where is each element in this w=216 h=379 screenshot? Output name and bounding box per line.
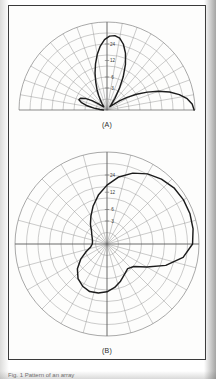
polar-chart-a-canvas: 361224 (12, 10, 202, 120)
scanned-page: 361224 (A) 361224 (B) Fig. 1 Pattern of … (0, 0, 216, 379)
caption-a: (A) (9, 121, 205, 128)
polar-chart-a: 361224 (9, 10, 205, 120)
svg-text:3: 3 (111, 86, 114, 91)
svg-text:6: 6 (111, 207, 114, 212)
svg-text:12: 12 (110, 58, 116, 63)
svg-text:3: 3 (111, 219, 114, 224)
svg-text:6: 6 (111, 75, 114, 80)
polar-chart-b-canvas: 361224 (12, 146, 202, 342)
svg-text:12: 12 (110, 190, 116, 195)
figure-frame: 361224 (A) 361224 (B) (8, 5, 206, 360)
figure-footer-text: Fig. 1 Pattern of an array (8, 370, 206, 379)
svg-text:24: 24 (110, 42, 116, 47)
svg-text:24: 24 (110, 173, 116, 178)
caption-b: (B) (9, 347, 205, 354)
polar-chart-b: 361224 (9, 146, 205, 342)
